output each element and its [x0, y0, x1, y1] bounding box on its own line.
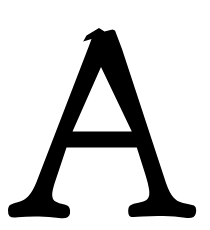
glyph-canvas: A [0, 0, 210, 230]
glyph-letter-a-svg: A [0, 0, 210, 230]
